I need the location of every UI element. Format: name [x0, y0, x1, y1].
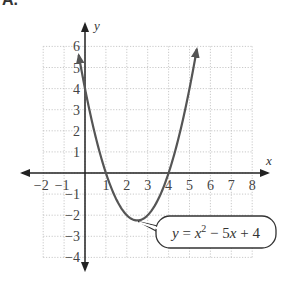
- x-tick-label: 8: [249, 178, 256, 193]
- x-tick-label: 2: [123, 178, 130, 193]
- y-tick-label: −4: [65, 250, 80, 265]
- y-tick-label: 2: [73, 124, 80, 139]
- x-tick-label: 5: [186, 178, 193, 193]
- parabola-graph: xy−2−112345678−4−3−2−1123456y = x2 − 5x …: [0, 0, 292, 283]
- x-axis-label: x: [265, 153, 272, 168]
- y-tick-label: 5: [73, 61, 80, 76]
- y-tick-label: 6: [73, 39, 80, 54]
- y-tick-label: 1: [73, 145, 80, 160]
- y-tick-label: −1: [65, 187, 80, 202]
- y-tick-label: 4: [73, 82, 80, 97]
- equation-label: y = x2 − 5x + 4: [170, 223, 260, 241]
- x-tick-label: 6: [207, 178, 214, 193]
- y-tick-label: −3: [65, 229, 80, 244]
- x-tick-label: −2: [34, 178, 49, 193]
- y-tick-label: 3: [73, 103, 80, 118]
- y-tick-label: −2: [65, 208, 80, 223]
- x-tick-label: 3: [144, 178, 151, 193]
- parabola-curve: [79, 49, 197, 220]
- y-axis-label: y: [92, 18, 100, 33]
- x-tick-label: 7: [228, 178, 235, 193]
